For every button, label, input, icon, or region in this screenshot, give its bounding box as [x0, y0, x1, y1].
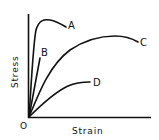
x-axis-label: Strain [72, 126, 103, 136]
curve-label-b: B [41, 47, 48, 58]
curve-label-c: C [140, 37, 147, 48]
origin-label: O [20, 121, 27, 131]
curve-d [29, 82, 90, 117]
y-axis-label: Stress [10, 56, 20, 88]
stress-strain-diagram: A B C D O Strain Stress [0, 0, 159, 140]
curve-label-d: D [93, 77, 101, 88]
curve-label-a: A [68, 20, 75, 31]
